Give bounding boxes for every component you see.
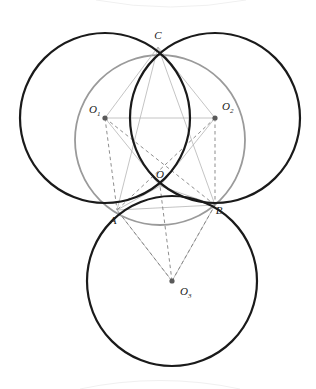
label-O1: O1 [89, 103, 100, 118]
segment-C-B [158, 47, 215, 205]
segment-O3-O [160, 186, 172, 281]
black-circle-group [20, 33, 300, 366]
segment-O1-A [105, 118, 117, 210]
label-O2-subscript: 2 [230, 107, 234, 115]
label-O3: O3 [180, 285, 192, 300]
geometry-figure: C O A B O1 O2 O3 [0, 0, 316, 389]
label-B: B [216, 204, 223, 216]
label-O2: O2 [222, 100, 234, 115]
label-O1-base: O [89, 103, 97, 115]
label-O2-base: O [222, 100, 230, 112]
scan-artifact-group [80, 0, 246, 389]
point-marker-O2 [212, 115, 217, 120]
point-marker-O1 [102, 115, 107, 120]
label-A: A [109, 214, 117, 226]
scan-artifact-arc-top [96, 0, 246, 7]
label-C: C [154, 29, 162, 41]
solid-segment-group [105, 47, 215, 281]
circle-O-circumscribed [75, 55, 245, 225]
label-O: O [156, 168, 164, 180]
scan-artifact-arc-bottom [80, 381, 240, 389]
label-O3-base: O [180, 285, 188, 297]
gray-circle-group [75, 55, 245, 225]
segment-C-A [117, 47, 158, 210]
label-O1-subscript: 1 [97, 110, 101, 118]
geometry-canvas: C O A B O1 O2 O3 [0, 0, 316, 389]
label-O3-subscript: 3 [187, 292, 192, 300]
point-marker-O3 [169, 278, 174, 283]
segment-O2-C [158, 47, 215, 118]
